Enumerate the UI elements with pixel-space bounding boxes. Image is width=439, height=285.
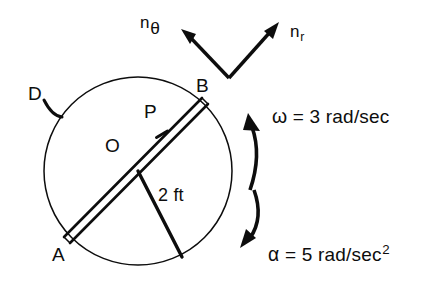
omega-symbol: ω (272, 105, 287, 127)
point-b-label: B (196, 76, 209, 95)
disk-leader-line (44, 100, 62, 117)
disk-d-label: D (28, 84, 42, 103)
n-theta-label: nθ (140, 14, 160, 37)
n-theta-vector (181, 29, 229, 78)
point-o-label: O (105, 136, 120, 155)
rotating-rod-diagram: nθ nr B D P O 2 ft A ω = 3 rad/sec α = 5… (0, 0, 439, 285)
alpha-curved-arrow (240, 190, 258, 248)
omega-curved-arrow (243, 113, 260, 190)
n-r-vector (229, 22, 279, 78)
radius-dimension-label: 2 ft (158, 186, 184, 204)
point-a-label: A (52, 245, 65, 264)
n-r-base: n (290, 22, 300, 41)
alpha-symbol: α (268, 243, 279, 265)
rod-end-a-cap (65, 238, 70, 243)
omega-arrowhead (243, 113, 260, 131)
rod-edge-upper (64, 98, 202, 237)
point-p-label: P (144, 102, 157, 121)
n-r-subscript: r (300, 30, 304, 44)
n-theta-base: n (140, 13, 150, 32)
n-theta-subscript: θ (150, 18, 160, 38)
alpha-exponent: 2 (382, 242, 390, 257)
angular-acceleration-label: α = 5 rad/sec2 (268, 243, 390, 264)
alpha-value: = 5 rad/sec (279, 244, 381, 265)
angular-velocity-label: ω = 3 rad/sec (272, 107, 390, 126)
omega-value: = 3 rad/sec (287, 106, 389, 127)
n-r-label: nr (290, 23, 304, 43)
radius-segment (138, 171, 182, 257)
rod-ab (64, 98, 208, 243)
